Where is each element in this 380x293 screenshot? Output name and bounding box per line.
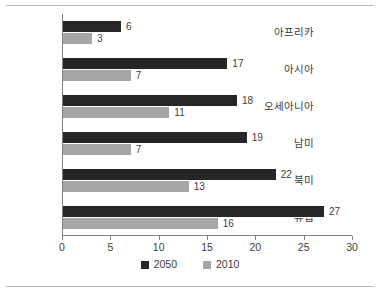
bar-value-label: 27 (329, 206, 340, 217)
bar-group: 197 (63, 132, 352, 155)
x-tick-mark (304, 236, 305, 240)
bar-2010-유럽 (63, 218, 218, 229)
bar-2010-남미 (63, 144, 131, 155)
bar-group: 2213 (63, 169, 352, 192)
bar-group: 177 (63, 58, 352, 81)
x-tick-mark (207, 236, 208, 240)
bar-2050-유럽 (63, 206, 324, 217)
x-tick-mark (352, 236, 353, 240)
legend-swatch-icon (141, 261, 149, 269)
x-tick-label-15: 15 (201, 241, 213, 253)
bar-2050-북미 (63, 169, 276, 180)
x-tick-label-20: 20 (249, 241, 261, 253)
legend-label: 2050 (154, 259, 177, 270)
bar-value-label: 3 (97, 33, 103, 44)
legend-item-2010[interactable]: 2010 (203, 259, 239, 270)
bar-2010-북미 (63, 181, 189, 192)
legend-label: 2010 (216, 259, 239, 270)
bar-value-label: 16 (223, 218, 234, 229)
x-tick-label-5: 5 (107, 241, 113, 253)
x-tick-mark (110, 236, 111, 240)
y-axis-line (62, 14, 63, 236)
bar-2050-남미 (63, 132, 247, 143)
bar-value-label: 17 (232, 58, 243, 69)
bar-value-label: 22 (281, 169, 292, 180)
bar-chart-figure: 아프리카아시아오세아니아남미북미유럽 63177181119722132716 … (0, 0, 380, 293)
bar-value-label: 7 (136, 70, 142, 81)
x-tick-label-0: 0 (59, 241, 65, 253)
top-divider-rule (6, 5, 374, 6)
bottom-divider-rule (6, 286, 374, 287)
legend-swatch-icon (203, 261, 211, 269)
x-tick-mark (159, 236, 160, 240)
chart-legend: 20502010 (0, 259, 380, 270)
bar-group: 2716 (63, 206, 352, 229)
x-tick-label-25: 25 (298, 241, 310, 253)
bar-2050-아프리카 (63, 21, 121, 32)
bar-2050-오세아니아 (63, 95, 237, 106)
x-tick-mark (255, 236, 256, 240)
bar-2010-아프리카 (63, 33, 92, 44)
bar-group: 63 (63, 21, 352, 44)
legend-item-2050[interactable]: 2050 (141, 259, 177, 270)
bar-2050-아시아 (63, 58, 227, 69)
bar-group: 1811 (63, 95, 352, 118)
bar-value-label: 13 (194, 181, 205, 192)
plot-area: 63177181119722132716 (62, 14, 352, 236)
bar-value-label: 7 (136, 144, 142, 155)
bar-value-label: 11 (174, 107, 184, 118)
bar-value-label: 18 (242, 95, 253, 106)
bar-value-label: 6 (126, 21, 132, 32)
x-tick-mark (62, 236, 63, 240)
bar-2010-오세아니아 (63, 107, 169, 118)
bar-2010-아시아 (63, 70, 131, 81)
x-tick-label-30: 30 (346, 241, 358, 253)
x-tick-label-10: 10 (153, 241, 165, 253)
bar-value-label: 19 (252, 132, 263, 143)
